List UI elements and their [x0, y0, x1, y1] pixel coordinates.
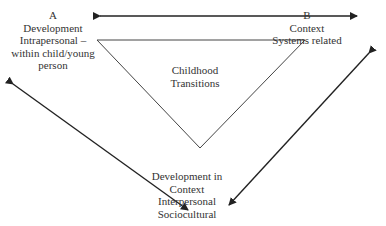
- node-bottom-line: Interpersonal: [128, 195, 246, 208]
- node-a-development-label: A Development Intrapersonal – within chi…: [8, 9, 98, 72]
- double-arrow-b-bottom: [229, 53, 369, 205]
- node-b-line: Systems related: [262, 34, 352, 47]
- node-bottom-line: Sociocultural: [128, 208, 246, 221]
- node-a-line: Development: [8, 22, 98, 35]
- transitions-triangle: [97, 40, 305, 148]
- center-line: Childhood: [150, 64, 240, 77]
- center-transitions-label: Childhood Transitions: [150, 64, 240, 89]
- node-b-line: Context: [262, 22, 352, 35]
- node-b-letter: B: [262, 9, 352, 22]
- center-line: Transitions: [150, 77, 240, 90]
- node-bottom-context-label: Development in Context Interpersonal Soc…: [128, 170, 246, 220]
- node-a-line: within child/young: [8, 47, 98, 60]
- node-a-line: person: [8, 59, 98, 72]
- node-a-line: Intrapersonal –: [8, 34, 98, 47]
- node-bottom-line: Development in: [128, 170, 246, 183]
- node-b-context-label: B Context Systems related: [262, 9, 352, 47]
- node-bottom-line: Context: [128, 183, 246, 196]
- node-a-letter: A: [8, 9, 98, 22]
